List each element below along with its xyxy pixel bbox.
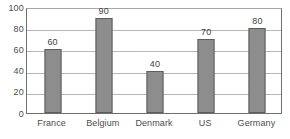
bar[interactable] [249, 28, 266, 113]
y-axis-tick-label: 40 [2, 67, 24, 76]
x-axis-tick-label: Germany [238, 118, 276, 128]
y-axis-tick-label: 60 [2, 46, 24, 55]
x-axis-tick-label: Belgium [86, 118, 119, 128]
x-axis-tick-label: US [199, 118, 212, 128]
x-axis-labels: FranceBelgiumDenmarkUSGermany [26, 118, 282, 134]
bar[interactable] [198, 39, 215, 113]
bar-value-label: 60 [47, 38, 57, 47]
bar[interactable] [146, 71, 163, 113]
plot-area: 6090407080 [26, 8, 282, 114]
bars-layer: 6090407080 [27, 9, 281, 113]
bar-value-label: 90 [99, 7, 109, 16]
bar-slot: 60 [27, 9, 78, 113]
bar-slot: 70 [181, 9, 232, 113]
x-axis-tick-label: France [37, 118, 66, 128]
bar-slot: 40 [129, 9, 180, 113]
bar-slot: 90 [78, 9, 129, 113]
bar-slot: 80 [232, 9, 283, 113]
x-axis-tick-label: Denmark [135, 118, 172, 128]
y-axis-tick-label: 100 [2, 4, 24, 13]
y-axis-tick-label: 80 [2, 25, 24, 34]
y-axis-tick-label: 0 [2, 110, 24, 119]
bar-value-label: 80 [252, 17, 262, 26]
bar-chart: 020406080100 6090407080 FranceBelgiumDen… [0, 0, 290, 139]
bar[interactable] [95, 18, 112, 113]
y-axis: 020406080100 [0, 0, 24, 139]
bar-value-label: 40 [150, 60, 160, 69]
y-axis-tick-label: 20 [2, 88, 24, 97]
bar[interactable] [44, 49, 61, 113]
bar-value-label: 70 [201, 28, 211, 37]
